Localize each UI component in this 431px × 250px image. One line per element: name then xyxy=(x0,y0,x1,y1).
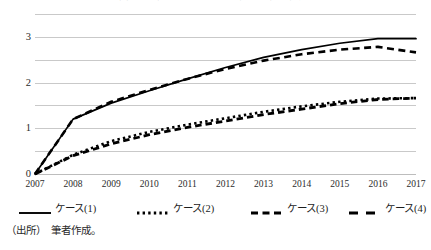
legend-swatch-dashed-long-icon xyxy=(348,204,382,214)
x-tick-2017: 2017 xyxy=(398,178,431,191)
legend-item-4[interactable]: ケース(4) xyxy=(348,201,426,217)
x-tick-2009: 2009 xyxy=(93,178,129,191)
legend-label-2: ケース(2) xyxy=(173,202,214,216)
legend-swatch-dotted-icon xyxy=(136,204,170,214)
source-label: （出所） xyxy=(6,225,46,236)
x-tick-2013: 2013 xyxy=(246,178,282,191)
x-axis-line xyxy=(35,174,416,175)
x-axis-labels: 2007200820092010201120122013201420152016… xyxy=(35,178,416,192)
source-text: 筆者作成。 xyxy=(51,225,101,236)
x-tick-2007: 2007 xyxy=(17,178,53,191)
x-tick-2014: 2014 xyxy=(284,178,320,191)
y-tick-2: 2 xyxy=(7,78,31,88)
source-note: （出所） 筆者作成。 xyxy=(6,224,101,238)
legend-item-2[interactable]: ケース(2) xyxy=(136,201,214,217)
x-tick-2016: 2016 xyxy=(360,178,396,191)
chart-title: 図表 1 各ケースにおける推計結果の推移 xyxy=(0,0,425,2)
x-tick-2012: 2012 xyxy=(208,178,244,191)
legend-label-4: ケース(4) xyxy=(385,202,426,216)
x-tick-2008: 2008 xyxy=(55,178,91,191)
legend-label-1: ケース(1) xyxy=(55,202,96,216)
y-tick-3: 3 xyxy=(7,32,31,42)
chart-legend: ケース(1)ケース(2)ケース(3)ケース(4) xyxy=(18,201,418,217)
x-tick-2015: 2015 xyxy=(322,178,358,191)
series-line-case-4 xyxy=(35,98,416,174)
legend-swatch-dashed-short-icon xyxy=(250,204,284,214)
legend-item-1[interactable]: ケース(1) xyxy=(18,201,96,217)
y-tick-1: 1 xyxy=(7,123,31,133)
legend-label-3: ケース(3) xyxy=(287,202,328,216)
series-line-case-2 xyxy=(35,98,416,174)
x-tick-2010: 2010 xyxy=(131,178,167,191)
x-tick-2011: 2011 xyxy=(169,178,205,191)
legend-swatch-solid-icon xyxy=(18,204,52,214)
series-layer xyxy=(35,14,416,174)
legend-item-3[interactable]: ケース(3) xyxy=(250,201,328,217)
plot-area xyxy=(35,14,416,174)
series-line-case-1 xyxy=(35,39,416,174)
